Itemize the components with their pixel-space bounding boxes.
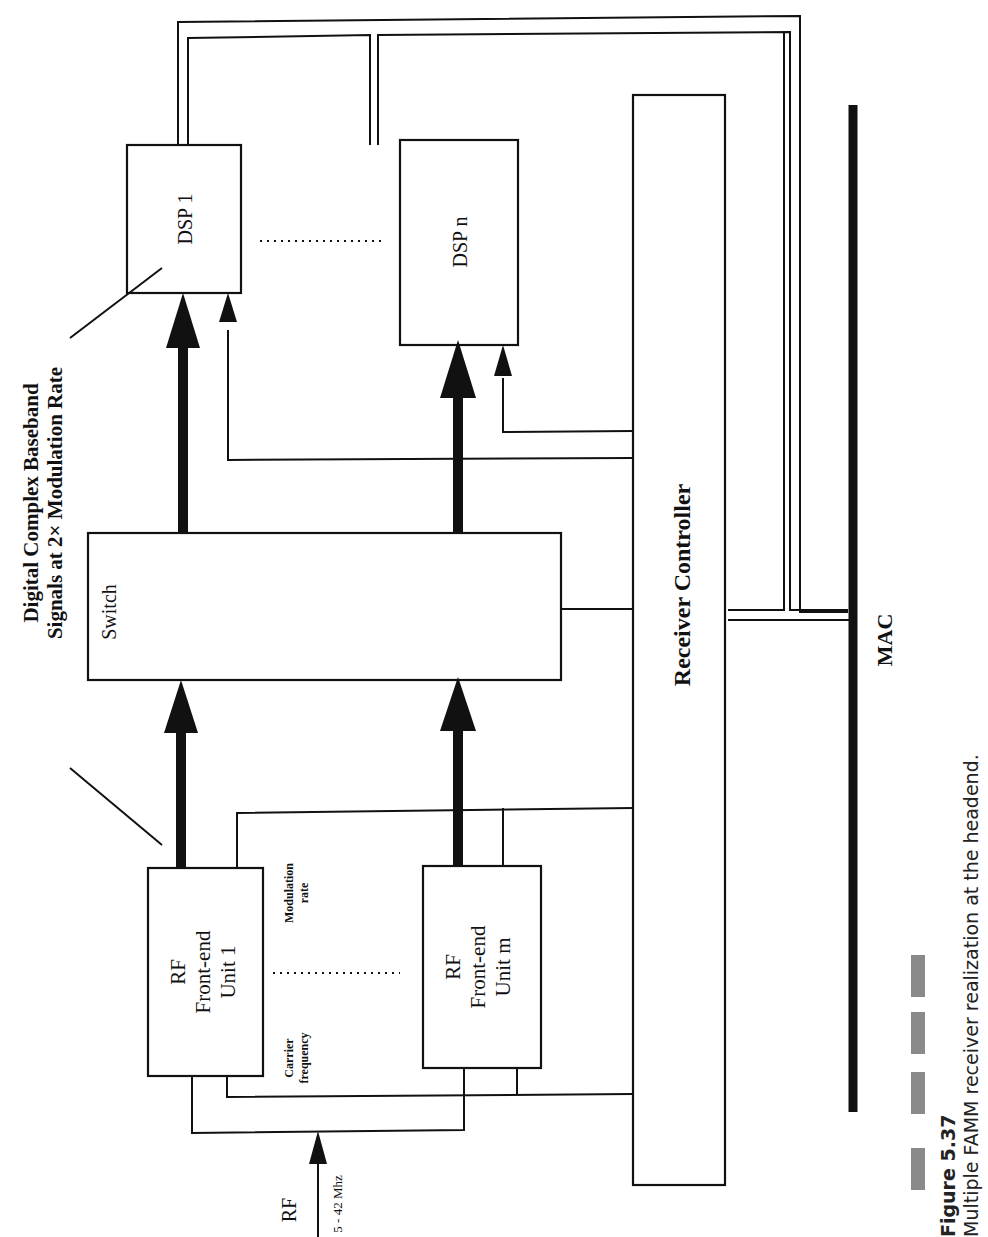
baseband-pointer-top (70, 268, 162, 338)
figure-number: Figure 5.37 (937, 1115, 959, 1237)
rf-unit-1-line3: Unit 1 (216, 945, 240, 998)
dsp-n-label: DSP n (449, 217, 471, 268)
baseband-label-line1: Digital Complex Baseband (19, 383, 43, 623)
rf-input-range-label: 5 - 42 Mhz (330, 1175, 345, 1233)
rf-unit-m-line2: Front-end (466, 925, 490, 1008)
arrow-up-icon (440, 677, 476, 731)
caption-bar (911, 955, 925, 997)
rf-input-label: RF (278, 1198, 300, 1222)
famm-receiver-diagram: MAC Receiver Controller DSP 1 DSP n Swit… (0, 0, 988, 1237)
switch-block (88, 533, 561, 680)
figure-caption: Multiple FAMM receiver realization at th… (960, 754, 982, 1237)
arrow-up-icon (164, 680, 198, 733)
switch-label: Switch (98, 584, 120, 640)
mac-label: MAC (872, 614, 897, 667)
baseband-label-line2: Signals at 2× Modulation Rate (43, 367, 67, 639)
rf-unit-m-line1: RF (441, 954, 465, 980)
carrier-frequency-label-line2: frequency (297, 1032, 311, 1083)
rf-input-distribution (192, 1068, 464, 1237)
arrow-up-icon (440, 340, 476, 398)
dsp1-to-dspn-link (188, 35, 370, 145)
rf-unit-m-line3: Unit m (491, 938, 515, 997)
arrow-up-icon (309, 1131, 327, 1164)
caption-bar (911, 1012, 925, 1054)
caption-bar (911, 1072, 925, 1114)
controller-to-mac-a (728, 32, 784, 610)
dsp-1-label: DSP 1 (174, 194, 196, 245)
rf-to-switch-arrows (164, 677, 476, 868)
baseband-pointer-bottom (70, 768, 162, 845)
rf-unit-1-line2: Front-end (191, 930, 215, 1013)
modulation-rate-label-line1: Modulation (282, 863, 296, 923)
caption-bar (911, 1148, 925, 1190)
arrow-up-icon (166, 293, 200, 348)
carrier-frequency-label-line1: Carrier (282, 1038, 296, 1078)
modulation-rate-label-line2: rate (297, 882, 311, 903)
arrow-up-icon (219, 293, 237, 322)
caption-decoration (911, 955, 925, 1190)
modulation-rate-lines (237, 808, 633, 868)
arrow-up-icon (494, 345, 512, 376)
rf-unit-1-line1: RF (166, 959, 190, 985)
receiver-controller-label: Receiver Controller (669, 483, 695, 686)
